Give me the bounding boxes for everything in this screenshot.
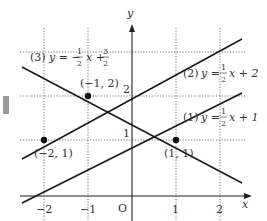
y-tick-2: 2 — [123, 83, 130, 96]
svg-text:y = −: y = − — [48, 51, 81, 64]
point-neg1-2 — [85, 93, 91, 99]
svg-text:1: 1 — [221, 107, 226, 116]
equation-1: (1) y = 1 2 x + 1 — [183, 107, 258, 128]
x-tick-2: 2 — [216, 203, 223, 216]
svg-text:x + 2: x + 2 — [229, 67, 258, 80]
svg-text:(1): (1) — [183, 111, 199, 124]
svg-text:1: 1 — [77, 47, 82, 56]
svg-text:2: 2 — [221, 75, 226, 84]
point-label-1-1: (1, 1) — [164, 147, 194, 160]
x-axis-label: x — [242, 198, 249, 211]
svg-text:y =: y = — [200, 111, 220, 124]
svg-text:(2): (2) — [183, 67, 199, 80]
y-tick-1: 1 — [123, 127, 130, 140]
svg-text:2: 2 — [103, 59, 108, 68]
point-label-neg2-1: (−2, 1) — [34, 147, 73, 160]
coordinate-plane: x y O −2 −1 1 2 1 2 (−1, 2) (−2, 1) (1, … — [0, 0, 267, 221]
equation-2: (2) y = 1 2 x + 2 — [183, 63, 258, 84]
svg-text:3: 3 — [103, 47, 108, 56]
x-tick-neg2: −2 — [36, 203, 52, 216]
origin-label: O — [118, 202, 127, 215]
svg-text:x + 1: x + 1 — [229, 111, 258, 124]
point-label-neg1-2: (−1, 2) — [80, 77, 119, 90]
svg-text:2: 2 — [221, 119, 226, 128]
svg-text:(3): (3) — [30, 51, 46, 64]
svg-text:2: 2 — [77, 59, 82, 68]
y-axis-label: y — [126, 7, 134, 20]
x-tick-neg1: −1 — [80, 203, 96, 216]
x-tick-1: 1 — [172, 203, 179, 216]
point-1-1 — [173, 137, 179, 143]
equation-3: (3) y = − 1 2 x + 3 2 — [30, 47, 109, 68]
svg-text:1: 1 — [221, 63, 226, 72]
point-neg2-1 — [41, 137, 47, 143]
svg-text:y =: y = — [200, 67, 220, 80]
